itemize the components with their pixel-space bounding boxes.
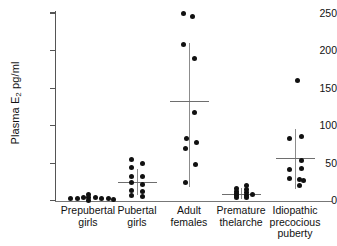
- data-point: [301, 178, 306, 183]
- data-point: [129, 165, 134, 170]
- data-point: [287, 176, 292, 181]
- data-point: [299, 166, 304, 171]
- data-point: [140, 182, 145, 187]
- data-point: [129, 193, 134, 198]
- data-point: [234, 195, 239, 200]
- data-point: [183, 146, 188, 151]
- data-point: [129, 157, 134, 162]
- data-point: [244, 195, 249, 200]
- y-tick-label: 250: [291, 8, 337, 19]
- data-point: [93, 195, 98, 200]
- data-point: [297, 183, 302, 188]
- data-point: [111, 197, 116, 202]
- data-point: [86, 198, 91, 203]
- data-point: [287, 136, 292, 141]
- data-point: [181, 11, 186, 16]
- data-point: [250, 192, 255, 197]
- data-point: [184, 136, 189, 141]
- data-point: [190, 14, 195, 19]
- data-point: [193, 162, 198, 167]
- mean-bar: [118, 182, 157, 183]
- data-point: [287, 167, 292, 172]
- y-tick-mark: [50, 163, 55, 164]
- data-point: [81, 195, 86, 200]
- data-point: [140, 194, 145, 199]
- sd-line: [189, 43, 190, 187]
- mean-bar: [222, 194, 261, 195]
- y-axis-line: [55, 11, 56, 202]
- data-point: [194, 140, 199, 145]
- data-point: [68, 196, 73, 201]
- data-point: [140, 189, 145, 194]
- data-point: [129, 188, 134, 193]
- y-tick-mark: [50, 50, 55, 51]
- data-point: [129, 180, 134, 185]
- data-point: [129, 174, 134, 179]
- y-axis-title-suffix: pg/ml: [9, 62, 21, 93]
- category-label-line: puberty: [263, 228, 327, 240]
- y-tick-mark: [50, 12, 55, 13]
- data-point: [181, 42, 186, 47]
- data-point: [106, 196, 111, 201]
- y-tick-label: 150: [291, 83, 337, 94]
- data-point: [295, 78, 300, 83]
- data-point: [140, 161, 145, 166]
- y-tick-mark: [50, 88, 55, 89]
- y-axis-title-prefix: Plasma E: [9, 97, 21, 145]
- data-point: [140, 174, 145, 179]
- mean-bar: [276, 158, 315, 159]
- y-tick-label: 200: [291, 45, 337, 56]
- y-axis-title: Plasma E2 pg/ml: [9, 23, 23, 183]
- scatter-plot: Plasma E2 pg/ml 050100150200250 Prepuber…: [0, 0, 337, 246]
- y-tick-mark: [50, 125, 55, 126]
- data-point: [192, 110, 197, 115]
- data-point: [75, 196, 80, 201]
- y-tick-label: 100: [291, 120, 337, 131]
- data-point: [299, 134, 304, 139]
- category-label: Idiopathicprecociouspuberty: [263, 205, 327, 240]
- mean-bar: [170, 101, 209, 102]
- data-point: [99, 196, 104, 201]
- data-point: [183, 180, 188, 185]
- category-label-line: Idiopathic: [263, 205, 327, 217]
- y-tick-label: 50: [291, 158, 337, 169]
- y-axis-title-subscript: 2: [14, 92, 23, 97]
- data-point: [192, 56, 197, 61]
- y-tick-mark: [50, 200, 55, 201]
